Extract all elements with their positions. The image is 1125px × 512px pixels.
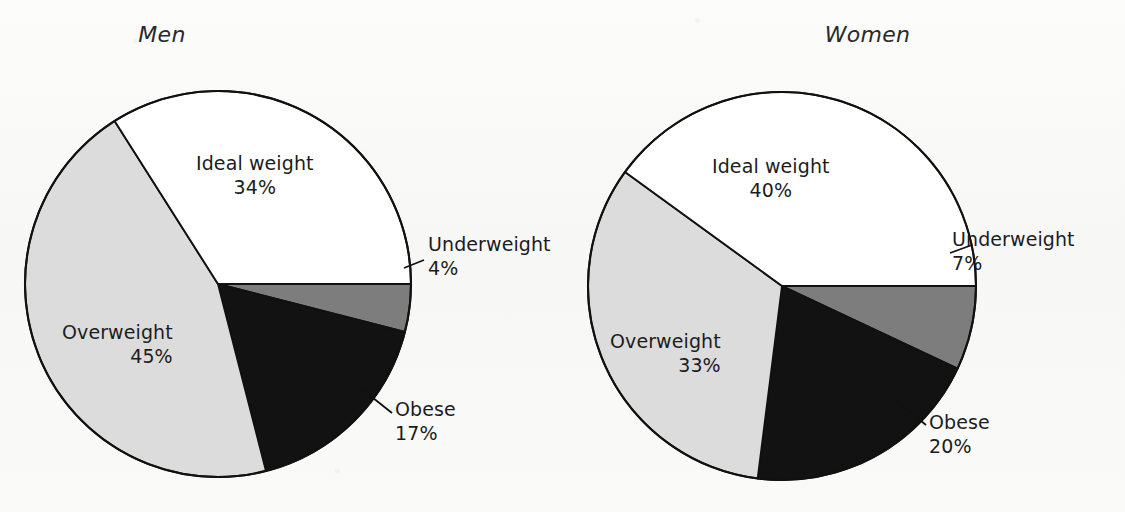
overweight-label-men: Overweight	[62, 321, 173, 343]
slice-label-overweight-men: Overweight 45%	[62, 321, 173, 369]
slice-label-ideal-weight-women: Ideal weight 40%	[712, 155, 830, 203]
underweight-label-women: Underweight	[952, 228, 1075, 250]
underweight-pct-women: 7%	[952, 252, 1075, 276]
ideal-weight-pct-women: 40%	[712, 179, 830, 203]
slice-label-overweight-women: Overweight 33%	[610, 330, 721, 378]
pie-chart-men: Men Ideal weight 34% Underweight 4% Obes…	[0, 0, 560, 512]
slice-label-underweight-men: Underweight 4%	[428, 233, 551, 281]
underweight-pct-men: 4%	[428, 257, 551, 281]
ideal-weight-pct-men: 34%	[196, 176, 314, 200]
overweight-label-women: Overweight	[610, 330, 721, 352]
obese-pct-women: 20%	[929, 435, 990, 459]
overweight-pct-women: 33%	[610, 354, 721, 378]
ideal-weight-label-women: Ideal weight	[712, 155, 830, 177]
obese-pct-men: 17%	[395, 422, 456, 446]
slice-label-obese-men: Obese 17%	[395, 398, 456, 446]
obese-label-women: Obese	[929, 411, 990, 433]
slice-label-obese-women: Obese 20%	[929, 411, 990, 459]
overweight-pct-men: 45%	[62, 345, 173, 369]
ideal-weight-label-men: Ideal weight	[196, 152, 314, 174]
slice-label-ideal-weight-men: Ideal weight 34%	[196, 152, 314, 200]
slice-label-underweight-women: Underweight 7%	[952, 228, 1075, 276]
obese-label-men: Obese	[395, 398, 456, 420]
underweight-label-men: Underweight	[428, 233, 551, 255]
pie-chart-women: Women Ideal weight 40% Underweight 7% Ob…	[560, 0, 1125, 512]
